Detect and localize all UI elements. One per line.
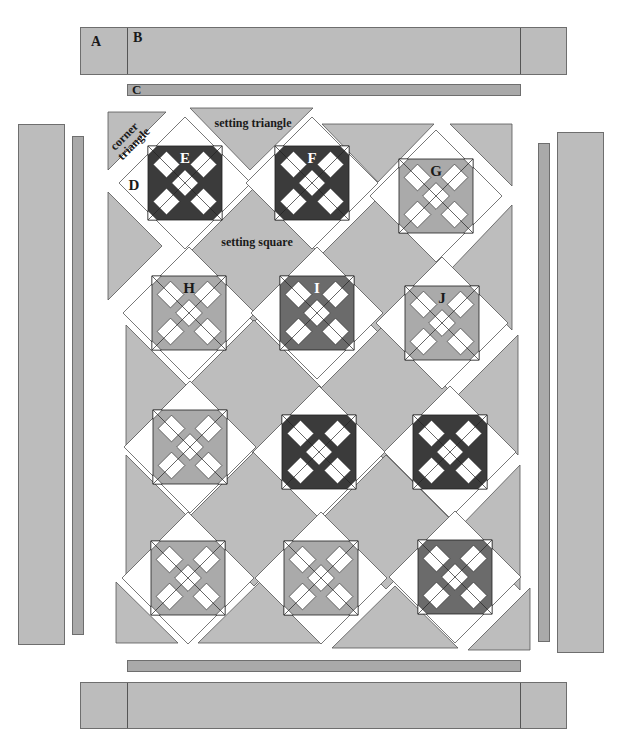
- setting-triangle-label: setting triangle: [215, 116, 293, 130]
- block-label-f: F: [307, 150, 316, 166]
- block-label-e: E: [180, 150, 190, 166]
- block-label-j: J: [438, 290, 446, 306]
- label-D: D: [129, 177, 140, 193]
- block-label-g: G: [430, 163, 442, 179]
- block-label-h: H: [183, 280, 195, 296]
- setting-square-label: setting square: [221, 235, 293, 249]
- quilt-center-diagram: EFGHIJ corner triangle setting triangle …: [0, 0, 628, 735]
- block-label-i: I: [314, 280, 320, 296]
